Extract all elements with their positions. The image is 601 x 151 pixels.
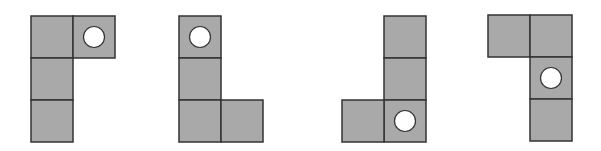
shape-4 (488, 15, 572, 141)
circle-marker (395, 111, 416, 132)
shape-3 (342, 16, 426, 142)
square-cell (488, 15, 530, 57)
square-cell (530, 15, 572, 57)
circle-marker (84, 27, 105, 48)
square-cell (31, 58, 73, 100)
circle-marker (541, 68, 562, 89)
square-cell (179, 100, 221, 142)
square-cell (31, 16, 73, 58)
square-cell (384, 16, 426, 58)
circle-marker (190, 27, 211, 48)
diagram-canvas (0, 0, 601, 151)
square-cell (31, 100, 73, 142)
shape-1 (31, 16, 115, 142)
square-cell (179, 58, 221, 100)
shape-2 (179, 16, 263, 142)
square-cell (342, 100, 384, 142)
square-cell (530, 99, 572, 141)
square-cell (221, 100, 263, 142)
square-cell (384, 58, 426, 100)
